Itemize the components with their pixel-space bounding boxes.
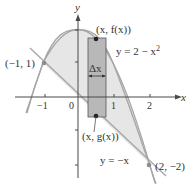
point-left-intersection	[42, 61, 47, 66]
label-lower-curve: y = −x	[100, 154, 129, 166]
label-left-intersection: (−1, 1)	[5, 57, 35, 70]
label-right-intersection: (2, −2)	[155, 160, 185, 173]
x-tick-label-0: 0	[69, 100, 74, 111]
area-between-curves-diagram: −1 0 1 2 x y (−1, 1) (2, −2) (x, f(x)) (…	[0, 0, 187, 188]
point-strip-top	[94, 37, 99, 42]
label-strip-bottom: (x, g(x))	[82, 130, 119, 143]
point-right-intersection	[147, 163, 152, 168]
strip-rectangle	[88, 38, 106, 117]
x-tick-label-2: 2	[147, 100, 152, 111]
strip-width-label: Δx	[89, 62, 102, 74]
y-axis-arrow	[76, 14, 81, 21]
label-strip-top: (x, f(x))	[96, 23, 131, 36]
x-tick-label-1: 1	[111, 100, 116, 111]
x-axis-label: x	[180, 91, 186, 103]
label-upper-curve: y = 2 − x2	[116, 44, 160, 57]
y-axis-label: y	[74, 1, 80, 13]
x-tick-label-neg1: −1	[37, 100, 48, 111]
